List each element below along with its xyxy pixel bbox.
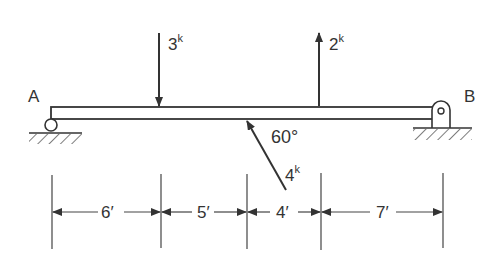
load-2k-unit: k [338,32,344,44]
beam-diagram [0,0,500,268]
load-4k-label: 4k [285,167,300,184]
angle-label: 60° [271,128,298,146]
dimension-6ft: 6′ [101,204,114,221]
load-4k-unit: k [294,163,300,175]
dimension-4ft: 4′ [276,204,289,221]
support-label-a: A [28,88,39,105]
load-3k-unit: k [177,32,183,44]
roller-support-a [29,119,82,144]
load-2k-label: 2k [329,36,344,53]
support-label-b: B [464,88,475,105]
dimension-7ft: 7′ [376,204,389,221]
beam [51,107,438,119]
load-3k-label: 3k [168,36,183,53]
dimension-5ft: 5′ [197,204,210,221]
